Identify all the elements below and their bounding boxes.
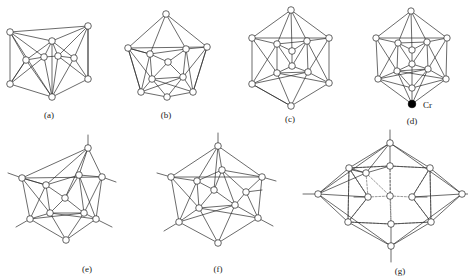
cluster-vertex (388, 221, 395, 228)
panel-c-vertices (249, 7, 333, 110)
cluster-vertex (409, 47, 415, 53)
cluster-vertex (443, 76, 449, 82)
cluster-vertex (409, 61, 415, 67)
cluster-vertex (27, 216, 34, 223)
cluster-vertex (180, 74, 187, 81)
cluster-vertex (255, 215, 262, 222)
cluster-vertex (163, 11, 170, 18)
cluster-vertex (289, 48, 296, 55)
panel-e: (e) (8, 135, 116, 274)
panel-f: (f) (157, 133, 276, 274)
cluster-vertex (49, 38, 56, 45)
cluster-vertex (249, 81, 256, 88)
panel-b-edges (128, 14, 207, 97)
cluster-vertex (138, 89, 145, 96)
cluster-vertex (76, 172, 83, 179)
cluster-vertex (149, 76, 156, 83)
cluster-vertex (373, 35, 379, 41)
cluster-vertex (183, 46, 190, 53)
panel-caption-a: (a) (44, 110, 54, 120)
cluster-vertex (305, 69, 312, 76)
cluster-vertex (43, 182, 50, 189)
cluster-vertex (7, 29, 14, 36)
cluster-vertex (71, 55, 78, 62)
cluster-vertex (259, 174, 266, 181)
cluster-vertex (7, 81, 14, 88)
cluster-vertex (47, 210, 54, 217)
panel-b: (b) (125, 11, 211, 120)
panel-a-edges (10, 26, 88, 97)
cluster-vertex (395, 40, 401, 46)
cluster-vertex (425, 66, 431, 72)
panel-caption-f: (f) (214, 264, 223, 274)
cluster-vertex (49, 94, 56, 101)
panel-g: (g) (303, 130, 468, 276)
cluster-vertex (346, 165, 353, 172)
cluster-vertex (85, 76, 92, 83)
cluster-vertex (304, 38, 311, 45)
cluster-vertex (345, 219, 352, 226)
cluster-vertex (427, 165, 434, 172)
panel-e-edges (22, 148, 102, 240)
cluster-vertex (363, 170, 370, 177)
panel-c: (c) (249, 7, 333, 124)
cluster-vertex (99, 174, 106, 181)
cluster-vertex (165, 59, 172, 66)
cluster-vertex (55, 53, 62, 60)
panel-caption-e: (e) (82, 264, 92, 274)
panel-a: (a) (7, 23, 92, 120)
cluster-vertex (190, 89, 197, 96)
panel-caption-c: (c) (285, 114, 295, 124)
panel-d: Cr (d) (373, 8, 450, 126)
cluster-vertex (176, 219, 183, 226)
cluster-vertex (243, 189, 250, 196)
cluster-vertex (215, 240, 222, 247)
cluster-vertex (365, 194, 372, 201)
cluster-vertex (388, 243, 395, 250)
panel-b-vertices (125, 11, 211, 101)
cluster-vertex (394, 68, 400, 74)
cluster-vertex (19, 175, 26, 182)
cluster-vertex (62, 195, 69, 202)
chromium-atom-vertex (408, 100, 416, 108)
panel-caption-d: (d) (407, 116, 418, 126)
cluster-vertex (387, 193, 394, 200)
cluster-vertex (23, 57, 30, 64)
cluster-vertex (288, 103, 295, 110)
cluster-vertex (196, 205, 203, 212)
cluster-vertex (424, 39, 430, 45)
cluster-vertex (125, 45, 132, 52)
panel-f-vertices (168, 143, 266, 247)
cluster-vertex (232, 202, 239, 209)
cluster-vertex (93, 216, 100, 223)
cluster-vertex (444, 35, 450, 41)
cluster-vertex (147, 51, 154, 58)
cluster-vertex (289, 63, 296, 70)
cluster-vertex (274, 41, 281, 48)
cluster-vertex (315, 191, 322, 198)
cluster-vertex (326, 80, 333, 87)
cluster-vertex (219, 167, 226, 174)
cluster-vertex (409, 194, 416, 201)
cluster-vertex (249, 35, 256, 42)
cluster-vertex (459, 191, 466, 198)
cluster-vertex (194, 178, 201, 185)
cluster-vertex (211, 187, 218, 194)
cluster-vertex (387, 140, 394, 147)
cluster-vertex (274, 70, 281, 77)
cluster-vertex (204, 44, 211, 51)
cluster-vertex (387, 163, 394, 170)
polyhedral-cluster-figure: (a) (0, 0, 468, 280)
cluster-vertex (326, 35, 333, 42)
cluster-vertex (41, 54, 48, 61)
cluster-vertex (81, 210, 88, 217)
cluster-vertex (85, 145, 92, 152)
panel-caption-b: (b) (161, 110, 172, 120)
cluster-vertex (168, 174, 175, 181)
cluster-vertex (409, 85, 415, 91)
cluster-vertex (428, 219, 435, 226)
chromium-atom-label: Cr (423, 100, 432, 110)
cluster-vertex (164, 94, 171, 101)
cluster-vertex (85, 23, 92, 30)
cluster-vertex (375, 76, 381, 82)
